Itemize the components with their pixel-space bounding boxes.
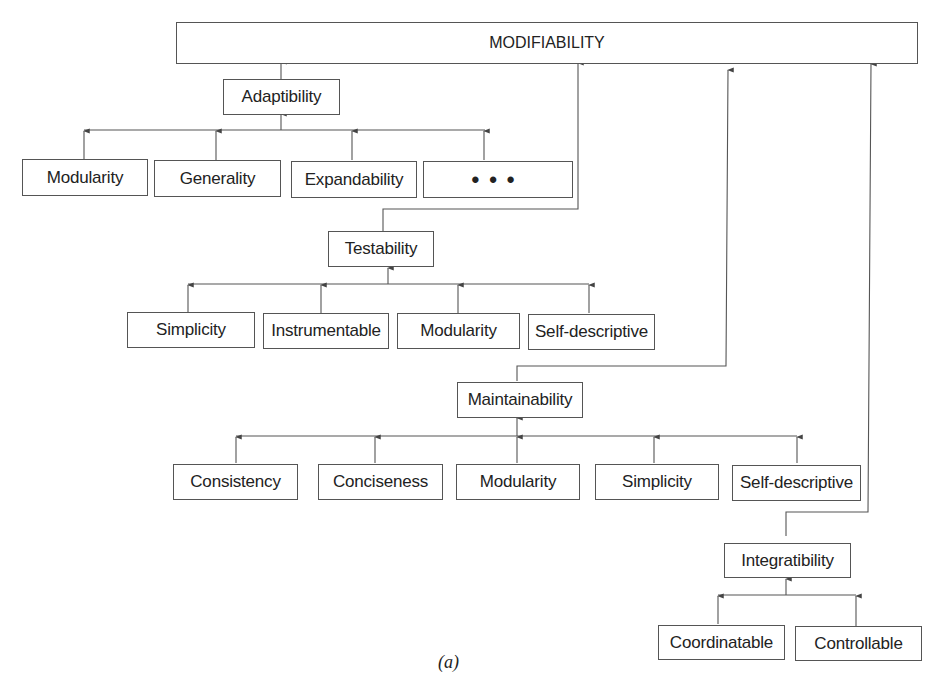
maintainability-child-self-descriptive: Self-descriptive: [732, 465, 861, 501]
testability-child-self-descriptive: Self-descriptive: [528, 314, 655, 350]
adaptibility-node: Adaptibility: [223, 79, 340, 115]
integratibility-node: Integratibility: [724, 543, 851, 578]
figure-caption: (a): [438, 652, 459, 673]
adaptibility-child-generality: Generality: [154, 160, 281, 197]
adaptibility-child-ellipsis: •••: [423, 161, 573, 198]
maintainability-child-conciseness: Conciseness: [318, 464, 443, 500]
adaptibility-child-expandability: Expandability: [291, 161, 417, 198]
adaptibility-child-modularity: Modularity: [22, 159, 148, 196]
maintainability-child-modularity: Modularity: [456, 464, 580, 500]
maintainability-child-consistency: Consistency: [173, 464, 298, 500]
testability-node: Testability: [328, 231, 434, 267]
modifiability-root-node: MODIFIABILITY: [176, 22, 918, 64]
maintainability-child-simplicity: Simplicity: [595, 464, 719, 500]
testability-child-modularity: Modularity: [397, 313, 520, 349]
integratibility-child-coordinatable: Coordinatable: [658, 625, 785, 660]
testability-child-instrumentable: Instrumentable: [263, 313, 389, 349]
testability-child-simplicity: Simplicity: [127, 312, 255, 348]
integratibility-child-controllable: Controllable: [795, 626, 922, 661]
maintainability-node: Maintainability: [457, 382, 583, 418]
